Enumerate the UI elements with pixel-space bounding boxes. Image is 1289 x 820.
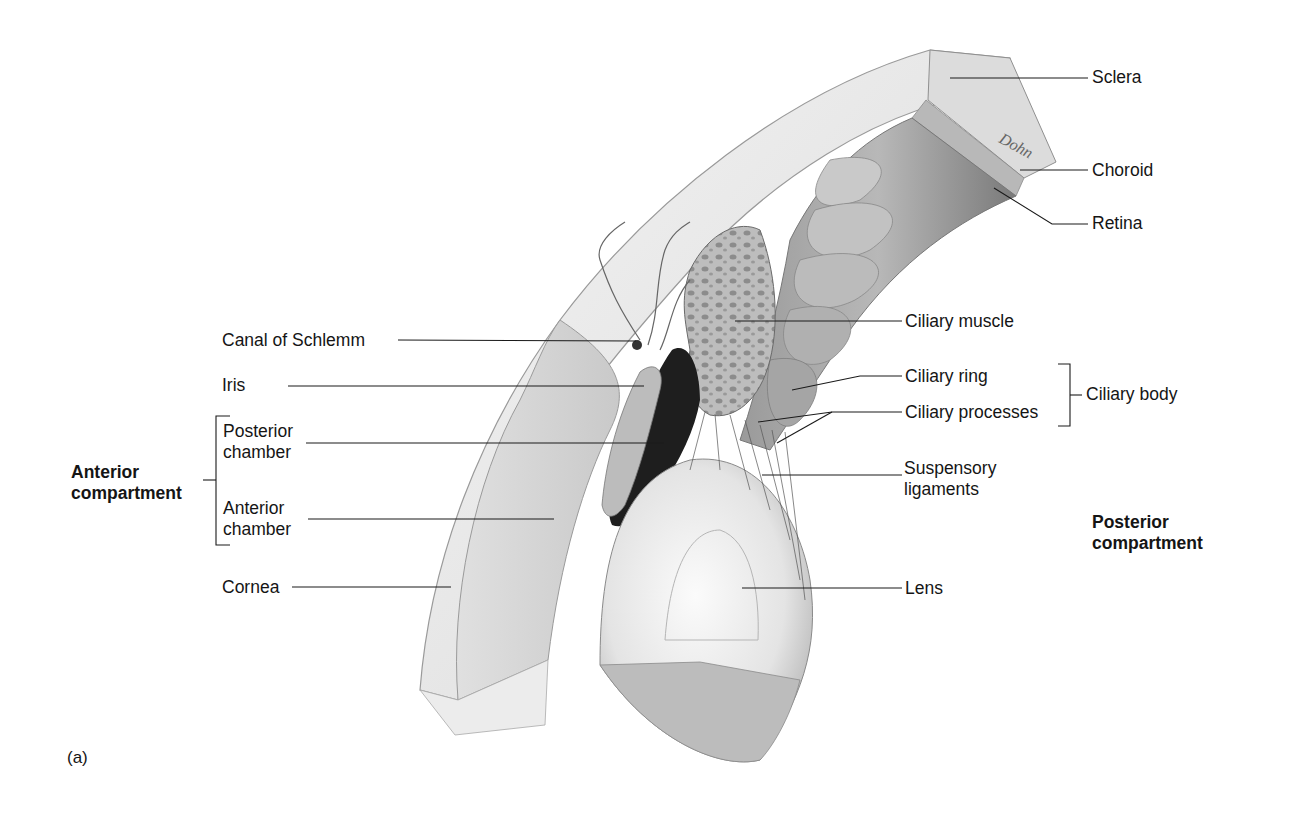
label-posterior-compartment: Posterior compartment	[1092, 512, 1203, 554]
label-posterior-chamber-line2: chamber	[223, 442, 293, 463]
eye-illustration: Dohn	[0, 0, 1289, 820]
label-iris: Iris	[222, 375, 245, 396]
label-retina: Retina	[1092, 213, 1143, 234]
label-ciliary-muscle: Ciliary muscle	[905, 311, 1014, 332]
label-anterior-compartment-line1: Anterior	[71, 462, 182, 483]
label-anterior-compartment: Anterior compartment	[71, 462, 182, 504]
label-ciliary-ring: Ciliary ring	[905, 366, 988, 387]
label-ciliary-processes: Ciliary processes	[905, 402, 1038, 423]
eye-anatomy-diagram: Dohn	[0, 0, 1289, 820]
label-suspensory-ligaments-line1: Suspensory	[904, 458, 996, 479]
panel-label: (a)	[67, 747, 88, 768]
label-posterior-compartment-line1: Posterior	[1092, 512, 1203, 533]
label-posterior-chamber: Posterior chamber	[223, 421, 293, 463]
label-suspensory-ligaments-line2: ligaments	[904, 479, 996, 500]
label-suspensory-ligaments: Suspensory ligaments	[904, 458, 996, 500]
label-posterior-compartment-line2: compartment	[1092, 533, 1203, 554]
label-lens: Lens	[905, 578, 943, 599]
label-anterior-chamber-line1: Anterior	[223, 498, 291, 519]
label-canal-of-schlemm: Canal of Schlemm	[222, 330, 365, 351]
label-anterior-chamber: Anterior chamber	[223, 498, 291, 540]
label-cornea: Cornea	[222, 577, 279, 598]
label-anterior-chamber-line2: chamber	[223, 519, 291, 540]
label-posterior-chamber-line1: Posterior	[223, 421, 293, 442]
label-choroid: Choroid	[1092, 160, 1153, 181]
label-sclera: Sclera	[1092, 67, 1142, 88]
label-ciliary-body: Ciliary body	[1086, 384, 1177, 405]
label-anterior-compartment-line2: compartment	[71, 483, 182, 504]
